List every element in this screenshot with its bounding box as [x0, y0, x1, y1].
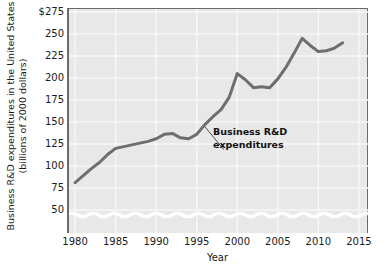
series-annotation-line-1: Business R&D [213, 126, 333, 139]
x-tick-label: 1980 [62, 236, 87, 247]
y-tick-label: 200 [26, 72, 64, 83]
x-tick-label: 2000 [225, 236, 250, 247]
y-tick-label: 225 [26, 50, 64, 61]
x-tick-label: 1985 [103, 236, 128, 247]
chart-canvas [67, 9, 368, 234]
y-axis-title-line-1: Business R&D expenditures in the United … [5, 2, 17, 231]
y-tick-label: 125 [26, 138, 64, 149]
gridlines [67, 9, 368, 234]
x-axis-tick-labels: 19801985199019952000200520102015 [0, 236, 386, 250]
axis-break-wave [67, 213, 368, 216]
y-tick-label: 100 [26, 160, 64, 171]
x-tick-label: 1990 [143, 236, 168, 247]
y-tick-label: 175 [26, 94, 64, 105]
x-tick-label: 1995 [184, 236, 209, 247]
x-tick-label: 2010 [306, 236, 331, 247]
series-annotation-line-2: expenditures [213, 139, 333, 152]
y-tick-label: 75 [26, 182, 64, 193]
plot-area [67, 8, 368, 233]
x-axis-title: Year [67, 252, 368, 263]
y-tick-label: 250 [26, 28, 64, 39]
y-tick-label: $275 [26, 6, 64, 17]
y-tick-label: 150 [26, 116, 64, 127]
x-tick-label: 2005 [265, 236, 290, 247]
y-axis-spine [67, 8, 69, 233]
y-axis-tick-labels: $2752502252001751501251007550 [26, 0, 64, 270]
axis-break-squiggle [67, 213, 368, 216]
series-annotation-label: Business R&D expenditures [213, 126, 333, 152]
chart-figure: Business R&D expenditures in the United … [0, 0, 386, 270]
x-tick-label: 2015 [346, 236, 371, 247]
y-tick-label: 50 [26, 204, 64, 215]
